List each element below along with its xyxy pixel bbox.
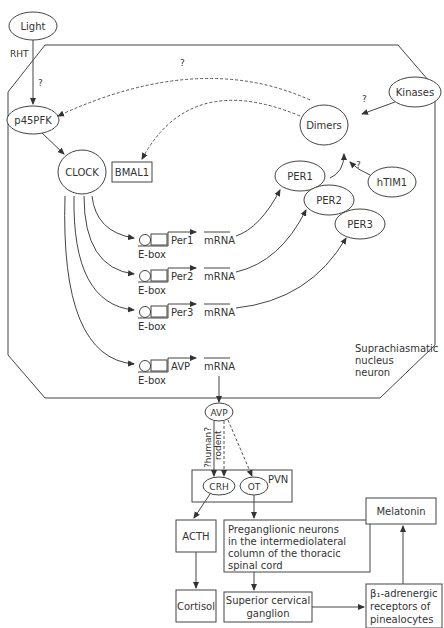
mrna-label: mRNA xyxy=(204,361,235,372)
rodent-label: rodent xyxy=(213,430,223,460)
preganglionic-line2: in the intermediolateral xyxy=(228,536,346,547)
ot-label: OT xyxy=(248,482,261,492)
gene-name: Per1 xyxy=(171,235,193,246)
melatonin-node: Melatonin xyxy=(366,498,436,524)
gene-per2: Per2 E-box mRNA xyxy=(138,268,235,296)
light-node: Light xyxy=(9,12,57,40)
htim1-label: hTIM1 xyxy=(377,177,407,188)
dimers-node: Dimers xyxy=(300,105,348,145)
htim1-node: hTIM1 xyxy=(368,167,416,197)
p45pfk-label: p45PFK xyxy=(14,115,52,126)
gene-name: Per3 xyxy=(171,307,193,318)
per3-protein-label: PER3 xyxy=(347,219,373,230)
ebox-label: E-box xyxy=(138,285,166,296)
cell-label-line1: Suprachiasmatic xyxy=(355,343,438,354)
htim1-question-mark: ? xyxy=(356,160,361,170)
crh-node: CRH xyxy=(203,477,235,495)
ebox-label: E-box xyxy=(138,321,166,332)
per3-protein-node: PER3 xyxy=(335,209,385,239)
gene-per3: Per3 E-box mRNA xyxy=(138,304,235,332)
mrna-label: mRNA xyxy=(204,307,235,318)
ot-node: OT xyxy=(240,477,268,495)
clock-to-per3-arrow xyxy=(74,196,134,310)
dimers-label: Dimers xyxy=(306,120,342,131)
ebox-label: E-box xyxy=(138,375,166,386)
avp-to-ot-arrow xyxy=(228,420,252,476)
mrna-label: mRNA xyxy=(204,235,235,246)
rht-label: RHT xyxy=(10,49,29,59)
preganglionic-node: Preganglionic neurons in the intermediol… xyxy=(224,520,370,572)
preganglionic-line3: column of the thoracic xyxy=(228,548,341,559)
beta-line1: β₁-adrenergic xyxy=(370,588,438,599)
superior-cervical-ganglion-node: Superior cervical ganglion xyxy=(224,592,312,622)
beta-line3: pinealocytes xyxy=(370,614,433,625)
per-to-dimers-arrow xyxy=(330,154,344,178)
bmal1-label: BMAL1 xyxy=(115,167,149,178)
acth-label: ACTH xyxy=(182,531,209,542)
per1-protein-label: PER1 xyxy=(287,171,313,182)
dimers-to-bmal1-dashed-arrow xyxy=(142,100,300,159)
clock-to-per1-arrow xyxy=(92,196,134,238)
gene-name: AVP xyxy=(171,361,190,372)
preganglionic-line1: Preganglionic neurons xyxy=(228,524,339,535)
cortisol-label: Cortisol xyxy=(177,601,215,612)
mrna-label: mRNA xyxy=(204,271,235,282)
avp-protein-node: AVP xyxy=(205,403,233,421)
cell-label-line2: nucleus xyxy=(355,355,394,366)
clock-to-per2-arrow xyxy=(84,196,134,274)
acth-node: ACTH xyxy=(176,520,216,552)
crh-label: CRH xyxy=(209,482,228,492)
clock-to-avp-gene-arrow xyxy=(65,196,134,364)
kinases-to-dimers-arrow xyxy=(362,102,395,114)
melatonin-label: Melatonin xyxy=(376,506,425,517)
gene-avp: AVP E-box mRNA xyxy=(138,358,235,386)
avp-protein-label: AVP xyxy=(210,408,228,418)
human-label: ?human? xyxy=(203,427,213,468)
scg-line1: Superior cervical xyxy=(226,595,310,606)
cell-label-line3: neuron xyxy=(355,367,390,378)
per3-mrna-to-protein-arrow xyxy=(236,238,346,308)
pvn-label: PVN xyxy=(268,474,288,485)
scg-line2: ganglion xyxy=(246,608,289,619)
gene-name: Per2 xyxy=(171,271,193,282)
circadian-diagram: Light RHT ? p45PFK CLOCK BMAL1 Dimers Ki… xyxy=(0,0,444,628)
kinases-question-mark: ? xyxy=(362,94,367,104)
per1-mrna-to-protein-arrow xyxy=(236,190,280,236)
per2-protein-label: PER2 xyxy=(316,195,342,206)
bmal1-node: BMAL1 xyxy=(112,162,152,182)
beta-adrenergic-receptors-node: β₁-adrenergic receptors of pinealocytes xyxy=(366,584,442,628)
light-label: Light xyxy=(21,21,46,32)
dimers-to-p45pfk-dashed-arrow xyxy=(58,78,310,116)
ebox-label: E-box xyxy=(138,249,166,260)
kinases-node: Kinases xyxy=(389,77,441,107)
p45pfk-node: p45PFK xyxy=(7,106,59,134)
per2-mrna-to-protein-arrow xyxy=(236,210,306,272)
gene-per1: Per1 E-box mRNA xyxy=(138,232,235,260)
preganglionic-line4: spinal cord xyxy=(228,560,283,571)
kinases-label: Kinases xyxy=(396,87,434,98)
per2-protein-node: PER2 xyxy=(304,185,354,215)
clock-label: CLOCK xyxy=(65,167,99,178)
light-question-mark: ? xyxy=(38,78,43,88)
feedback-question-mark: ? xyxy=(180,58,185,68)
clock-node: CLOCK xyxy=(58,150,106,194)
p45pfk-to-clock-arrow xyxy=(42,133,64,154)
cortisol-node: Cortisol xyxy=(176,590,216,622)
beta-line2: receptors of xyxy=(370,601,431,612)
